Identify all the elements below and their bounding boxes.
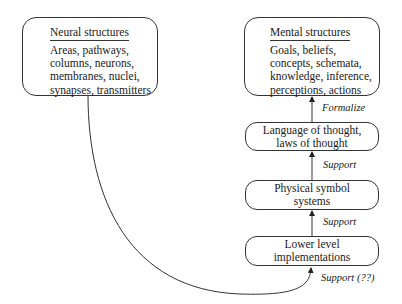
language-line: Language of thought,	[263, 124, 362, 137]
neural-structures-title: Neural structures	[50, 26, 129, 41]
mental-structures-items: Goals, beliefs, concepts, schemata, know…	[270, 44, 379, 97]
neural-line: membranes, nuclei,	[50, 70, 157, 83]
neural-line: Areas, pathways,	[50, 44, 157, 57]
neural-line: columns, neurons,	[50, 57, 157, 70]
neural-structures-items: Areas, pathways, columns, neurons, membr…	[50, 44, 157, 97]
neural-structures-box: Neural structures Areas, pathways, colum…	[22, 17, 158, 96]
mental-structures-box: Mental structures Goals, beliefs, concep…	[244, 17, 380, 96]
neural-line: synapses, transmitters	[50, 84, 157, 97]
physical-symbol-systems-box: Physical symbol systems	[245, 180, 379, 210]
lower-line: Lower level	[274, 238, 351, 251]
language-line: laws of thought	[263, 137, 362, 150]
physical-line: systems	[274, 195, 350, 208]
language-of-thought-box: Language of thought, laws of thought	[245, 122, 379, 151]
support-label-upper: Support	[323, 159, 356, 170]
formalize-label: Formalize	[322, 102, 365, 113]
mental-line: perceptions, actions	[270, 84, 379, 97]
mental-line: concepts, schemata,	[270, 57, 379, 70]
support-label-lower: Support	[323, 216, 356, 227]
physical-line: Physical symbol	[274, 182, 350, 195]
mental-line: knowledge, inference,	[270, 70, 379, 83]
mental-structures-title: Mental structures	[270, 26, 350, 41]
lower-line: implementations	[274, 251, 351, 264]
support-uncertain-label: Support (??)	[321, 272, 374, 283]
lower-level-implementations-box: Lower level implementations	[245, 236, 379, 266]
mental-line: Goals, beliefs,	[270, 44, 379, 57]
